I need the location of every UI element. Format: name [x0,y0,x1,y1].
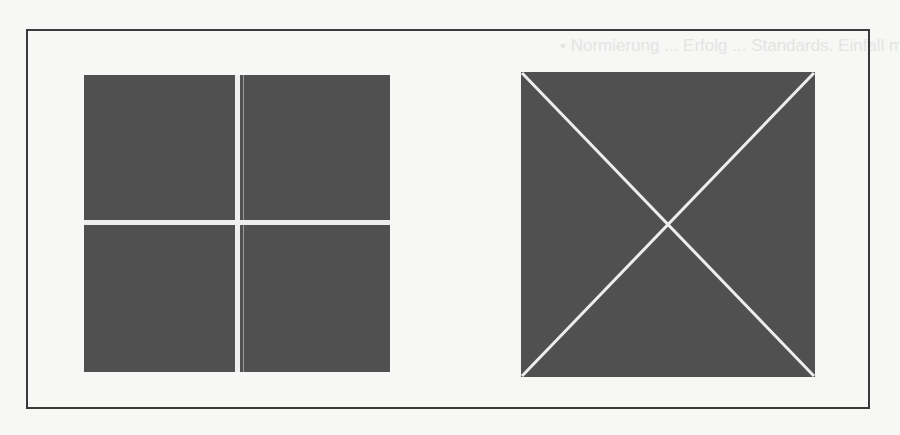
diagonal-x-graphic [521,72,815,377]
scanned-page: • Normierung ... Erfolg ... Standards. E… [0,0,900,435]
quadrant-square-panel [84,75,390,372]
diagonal-square-panel [521,72,815,377]
horizontal-divider-line [84,220,390,225]
